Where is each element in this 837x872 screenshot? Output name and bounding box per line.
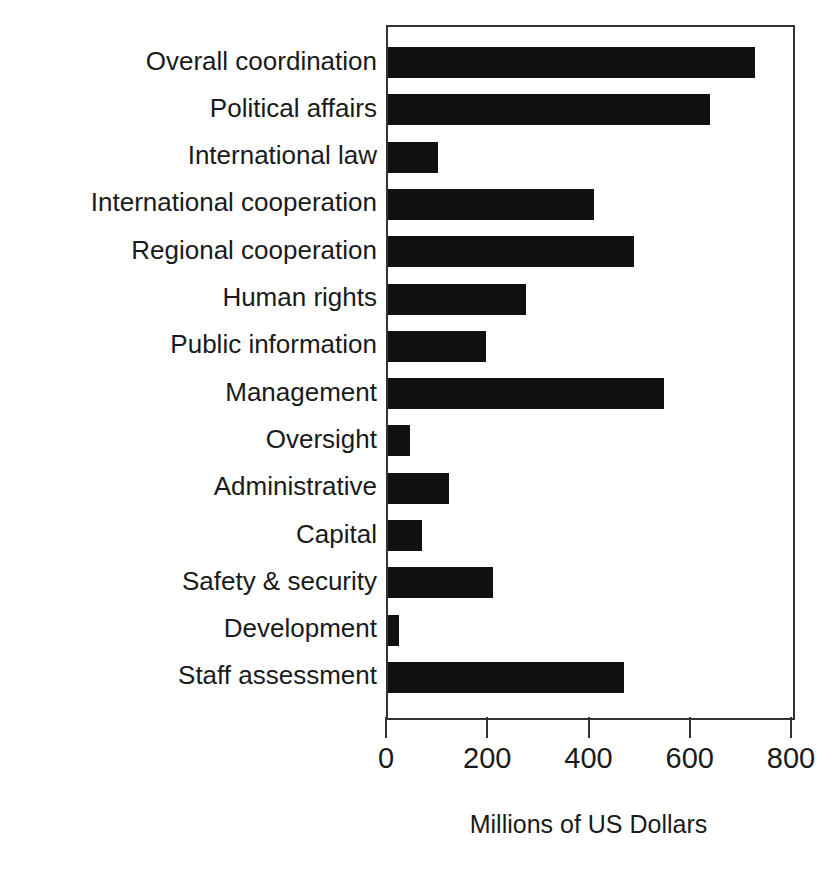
category-label: Human rights	[0, 284, 377, 310]
bar	[388, 331, 486, 362]
x-axis-tick	[486, 717, 488, 738]
bar	[388, 284, 526, 315]
category-label: Regional cooperation	[0, 237, 377, 263]
bar	[388, 236, 634, 267]
category-label: Safety & security	[0, 568, 377, 594]
x-axis-tick-label: 200	[463, 744, 511, 773]
bar	[388, 189, 594, 220]
x-axis-title: Millions of US Dollars	[386, 812, 791, 837]
x-axis-tick-label: 800	[767, 744, 815, 773]
plot-area	[388, 27, 793, 718]
category-label: Staff assessment	[0, 662, 377, 688]
x-axis-tick-label: 0	[378, 744, 394, 773]
category-label: Overall coordination	[0, 48, 377, 74]
category-label: Oversight	[0, 426, 377, 452]
bar-chart-figure: Overall coordinationPolitical affairsInt…	[0, 0, 837, 872]
bar	[388, 567, 493, 598]
plot-frame	[386, 25, 795, 720]
bar	[388, 378, 664, 409]
bar	[388, 473, 449, 504]
bar	[388, 520, 422, 551]
category-label: International law	[0, 142, 377, 168]
x-axis-tick-label: 400	[564, 744, 612, 773]
x-axis-tick	[689, 717, 691, 738]
bar	[388, 425, 410, 456]
category-label: Public information	[0, 331, 377, 357]
bar	[388, 662, 624, 693]
x-axis-tick-label: 600	[666, 744, 714, 773]
bar	[388, 615, 399, 646]
bar	[388, 94, 710, 125]
category-label: Management	[0, 379, 377, 405]
category-label: Capital	[0, 521, 377, 547]
category-label: Administrative	[0, 473, 377, 499]
category-label: International cooperation	[0, 189, 377, 215]
bar	[388, 142, 438, 173]
x-axis-tick	[588, 717, 590, 738]
category-label: Development	[0, 615, 377, 641]
x-axis-tick	[790, 717, 792, 738]
bar	[388, 47, 755, 78]
category-label: Political affairs	[0, 95, 377, 121]
x-axis-tick	[385, 717, 387, 738]
category-axis: Overall coordinationPolitical affairsInt…	[0, 25, 377, 716]
